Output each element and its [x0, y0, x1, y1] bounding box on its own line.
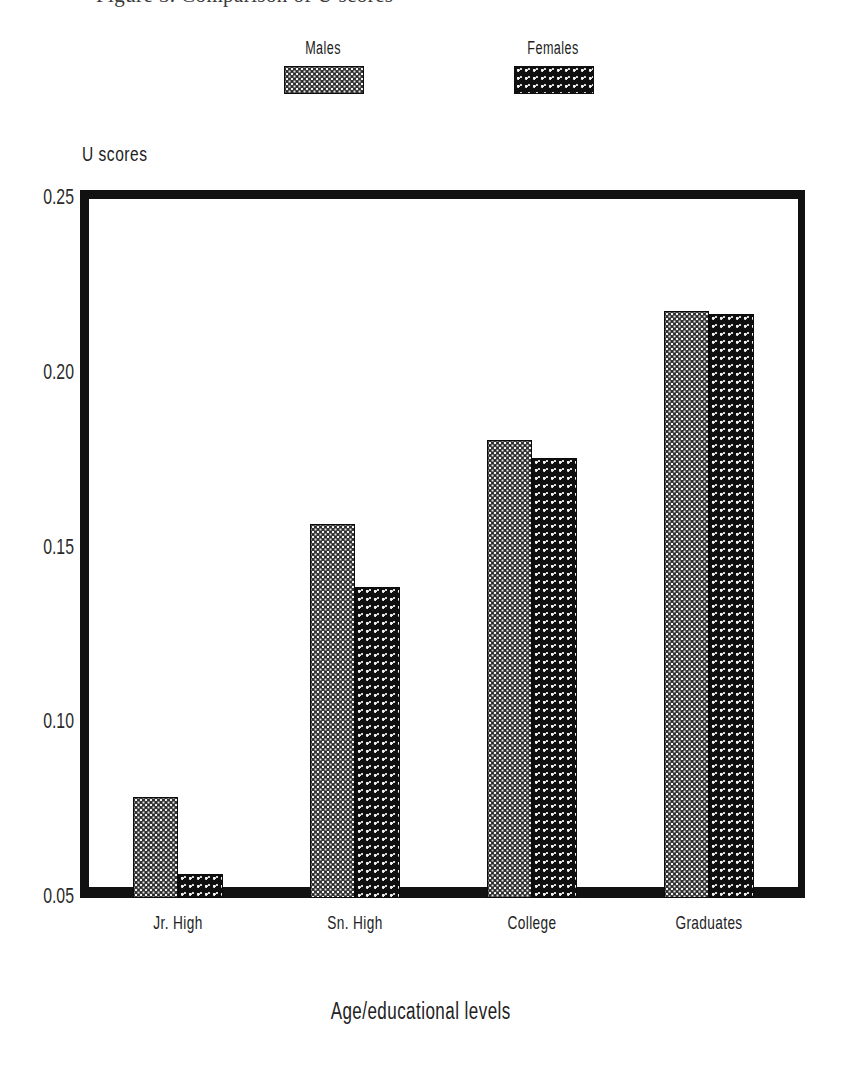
clipped-caption-strip: Figure 3. Comparison of U scores	[0, 0, 842, 16]
bar-males-graduates	[664, 311, 709, 898]
bars-layer	[89, 199, 798, 898]
legend-entry-males: Males	[243, 38, 403, 98]
x-axis-title-text: Age/educational levels	[331, 998, 511, 1025]
bar-females-college	[532, 458, 577, 898]
legend-entry-females: Females	[473, 38, 633, 98]
bar-males-jr-high	[133, 797, 178, 898]
y-axis-tick-label: 0.15	[21, 534, 74, 560]
legend-label-males: Males	[267, 38, 379, 59]
y-axis-tick-label: 0.05	[21, 883, 74, 909]
x-axis-tick-label: Graduates	[645, 912, 775, 934]
legend-swatch-males	[284, 66, 364, 94]
bar-females-graduates	[709, 314, 754, 898]
bar-males-college	[487, 440, 532, 898]
x-axis-tick-label: Jr. High	[113, 912, 243, 934]
chart-legend: Males Females	[0, 38, 842, 110]
legend-label-females: Females	[497, 38, 609, 59]
y-axis-tick-label: 0.10	[21, 708, 74, 734]
y-axis-title: U scores	[82, 142, 147, 166]
y-axis-tick-label: 0.25	[21, 184, 74, 210]
y-axis-tick-label: 0.20	[21, 359, 74, 385]
clipped-caption-text: Figure 3. Comparison of U scores	[96, 0, 393, 8]
x-axis-tick-label: College	[467, 912, 597, 934]
plot-area	[80, 190, 805, 898]
x-axis-tick-label: Sn. High	[290, 912, 420, 934]
bar-males-sn-high	[310, 524, 355, 898]
bar-females-sn-high	[355, 587, 400, 898]
bar-females-jr-high	[178, 874, 223, 898]
legend-swatch-females	[514, 66, 594, 94]
x-axis-title: Age/educational levels	[0, 998, 842, 1025]
